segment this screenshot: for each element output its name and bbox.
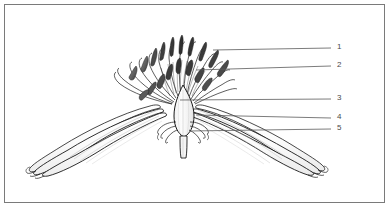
callout-number-3: 3 xyxy=(337,94,341,102)
callout-number-2: 2 xyxy=(337,61,341,69)
petal-right xyxy=(189,105,328,177)
callout-number-1: 1 xyxy=(337,43,341,51)
petal-left xyxy=(26,105,167,178)
pedicel xyxy=(180,136,187,158)
callout-number-5: 5 xyxy=(337,124,341,132)
callout-line-1 xyxy=(213,48,331,50)
callout-line-2 xyxy=(196,66,331,70)
flower-illustration xyxy=(0,0,390,210)
figure-page: 12345 xyxy=(0,0,390,210)
callout-number-4: 4 xyxy=(337,113,341,121)
callout-line-3 xyxy=(180,99,331,100)
anthers xyxy=(129,35,229,100)
